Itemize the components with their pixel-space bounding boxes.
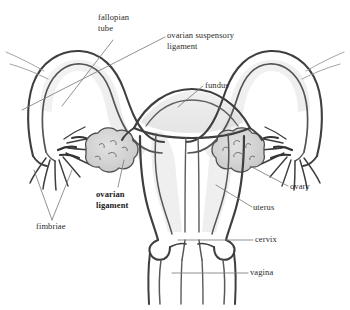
- fimbriae-right: [256, 127, 320, 190]
- label-fundus: fundus: [205, 80, 229, 91]
- label-vagina: vagina: [250, 267, 273, 278]
- leader-ovary: [250, 166, 288, 186]
- label-uterus: uterus: [253, 202, 274, 213]
- fimbriae-left: [30, 127, 94, 190]
- vagina: [148, 253, 235, 304]
- diagram-canvas: fallopian tube ovarian suspensory ligame…: [0, 0, 350, 310]
- label-fallopian-tube: fallopian tube: [98, 12, 129, 33]
- cervix: [149, 240, 234, 260]
- ovary-left: [86, 128, 138, 172]
- label-fimbriae: fimbriae: [36, 221, 66, 232]
- label-cervix: cervix: [255, 234, 277, 245]
- label-ovarian-ligament: ovarian ligament: [96, 189, 128, 210]
- leader-fimbriae-a: [34, 170, 52, 220]
- label-ovary: ovary: [290, 181, 310, 192]
- leader-ovarian-suspensory-ligament: [22, 37, 165, 110]
- label-ovarian-suspensory-ligament: ovarian suspensory ligament: [167, 30, 234, 51]
